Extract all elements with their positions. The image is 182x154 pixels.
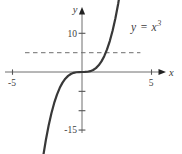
y-tick-label: 10 [68, 29, 78, 39]
y-axis-label: y [72, 4, 78, 15]
x-axis-label: x [168, 67, 174, 78]
axis-tick-labels: -5510-15 [8, 29, 154, 136]
x-axis-arrow-icon [159, 69, 167, 75]
y-tick-label: -15 [64, 125, 77, 135]
equation-base: y = x [131, 21, 157, 33]
y-axis-arrow-icon [79, 7, 85, 15]
equation-exponent: 3 [157, 19, 161, 28]
x-tick-label: -5 [8, 78, 16, 88]
x-tick-label: 5 [149, 78, 154, 88]
equation-label: y = x3 [131, 19, 161, 33]
cubic-function-figure: -5510-15 x y y = x3 [0, 0, 182, 154]
